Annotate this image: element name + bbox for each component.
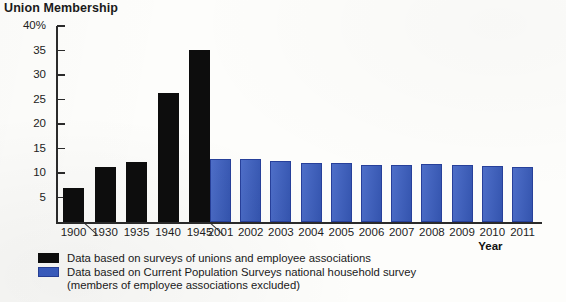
axis-break-mark-2 — [211, 223, 224, 236]
y-tick-label-5: 5 — [0, 192, 46, 204]
y-tick-label-30: 30 — [0, 69, 46, 81]
bar-2010 — [482, 166, 503, 222]
bar-2011 — [512, 167, 533, 222]
y-tick-mark-10 — [57, 172, 65, 174]
y-tick-label-40: 40% — [0, 20, 46, 32]
x-axis-title: Year — [478, 240, 502, 252]
bar-2007 — [391, 165, 412, 222]
y-tick-mark-30 — [57, 74, 65, 76]
legend-label-blue-continued: (members of employee associations exclud… — [67, 279, 300, 293]
bar-2004 — [301, 163, 322, 222]
y-tick-mark-40 — [57, 25, 65, 27]
bar-1930 — [95, 167, 116, 222]
legend-swatch-black — [38, 253, 59, 263]
axis-break-mark-1 — [85, 223, 98, 236]
bar-2003 — [270, 161, 291, 222]
y-tick-mark-35 — [57, 50, 65, 52]
bar-1935 — [126, 162, 147, 222]
bar-2001 — [210, 159, 231, 222]
bar-2006 — [361, 165, 382, 222]
bar-2002 — [240, 159, 261, 222]
bar-1900 — [63, 188, 84, 222]
bar-2008 — [421, 164, 442, 222]
bar-2005 — [331, 163, 352, 222]
bar-1945 — [189, 50, 210, 222]
x-tick-label-2011: 2011 — [503, 226, 543, 238]
bar-2009 — [452, 165, 473, 222]
y-tick-mark-25 — [57, 99, 65, 101]
y-tick-mark-15 — [57, 148, 65, 150]
y-tick-label-20: 20 — [0, 118, 46, 130]
legend-label-blue: Data based on Current Population Surveys… — [67, 266, 416, 280]
x-axis-line — [56, 222, 542, 224]
y-tick-label-15: 15 — [0, 143, 46, 155]
legend-label-black: Data based on surveys of unions and empl… — [67, 252, 371, 266]
y-tick-label-35: 35 — [0, 45, 46, 57]
legend-swatch-blue — [38, 267, 59, 277]
y-tick-label-10: 10 — [0, 167, 46, 179]
bar-1940 — [158, 93, 179, 222]
y-tick-label-25: 25 — [0, 94, 46, 106]
y-tick-mark-20 — [57, 123, 65, 125]
